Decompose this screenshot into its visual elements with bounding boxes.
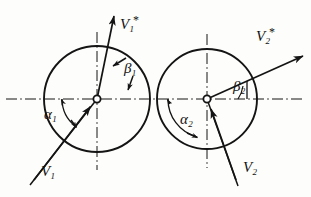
- left-center-hub: [93, 95, 100, 102]
- label-v2-star: V2*: [256, 26, 275, 46]
- alpha2-arrow-end: [187, 133, 198, 138]
- label-beta2: β2: [233, 79, 245, 96]
- label-v1: V1: [41, 164, 55, 181]
- right-center-hub: [203, 95, 210, 102]
- label-v1-star: V1*: [120, 14, 139, 34]
- beta1-arrow-down: [128, 76, 133, 90]
- centerline-group: [6, 32, 305, 170]
- label-beta1: β1: [124, 61, 136, 78]
- v2-star-outgoing-vector: [207, 56, 303, 99]
- label-v2: V2: [243, 160, 257, 177]
- velocity-vector-diagram: V1* V2* V1 V2 β1 β2 α1 α2: [0, 0, 311, 197]
- label-alpha2: α2: [180, 112, 193, 129]
- v1-star-outgoing-vector: [97, 16, 114, 99]
- label-alpha1: α1: [44, 107, 57, 124]
